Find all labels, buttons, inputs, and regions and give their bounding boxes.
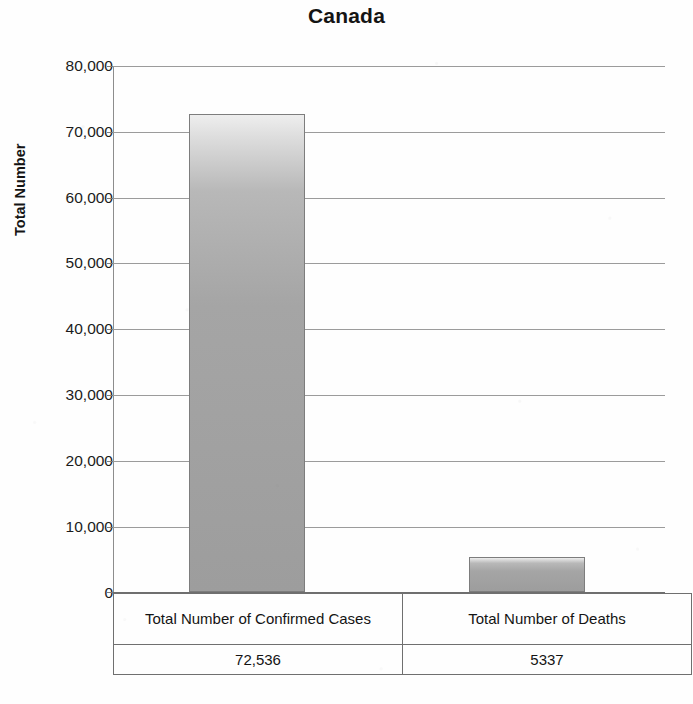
- tick-mark-40000: [107, 329, 113, 330]
- table-row-values: 72,536 5337: [114, 645, 692, 675]
- tick-mark-70000: [107, 132, 113, 133]
- y-tick-label-70000: 70,000: [23, 123, 113, 141]
- y-tick-label-60000: 60,000: [23, 189, 113, 207]
- y-tick-label-30000: 30,000: [23, 386, 113, 404]
- table-row-headers: Total Number of Confirmed Cases Total Nu…: [114, 594, 692, 645]
- bar-confirmed-cases[interactable]: [189, 114, 305, 592]
- gridline-80000: [113, 66, 665, 67]
- tick-mark-20000: [107, 461, 113, 462]
- table-header-deaths: Total Number of Deaths: [403, 594, 692, 645]
- y-tick-label-20000: 20,000: [23, 452, 113, 470]
- y-tick-label-40000: 40,000: [23, 320, 113, 338]
- bar-deaths[interactable]: [469, 557, 585, 592]
- table-header-confirmed-cases: Total Number of Confirmed Cases: [114, 594, 403, 645]
- tick-mark-50000: [107, 263, 113, 264]
- y-tick-label-0: 0: [23, 584, 113, 602]
- plot-area: [113, 66, 665, 593]
- data-table: Total Number of Confirmed Cases Total Nu…: [113, 593, 692, 675]
- y-tick-label-10000: 10,000: [23, 518, 113, 536]
- tick-mark-10000: [107, 527, 113, 528]
- tick-mark-60000: [107, 198, 113, 199]
- chart-title: Canada: [0, 4, 693, 28]
- table-value-confirmed-cases: 72,536: [114, 645, 403, 675]
- table-value-deaths: 5337: [403, 645, 692, 675]
- tick-mark-80000: [107, 66, 113, 67]
- y-tick-label-80000: 80,000: [23, 57, 113, 75]
- tick-mark-30000: [107, 395, 113, 396]
- y-tick-label-50000: 50,000: [23, 254, 113, 272]
